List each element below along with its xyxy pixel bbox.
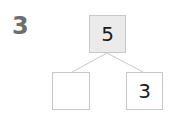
part-box: 3 [126, 72, 163, 110]
part-box-empty[interactable] [52, 72, 90, 110]
whole-box: 5 [89, 15, 126, 53]
